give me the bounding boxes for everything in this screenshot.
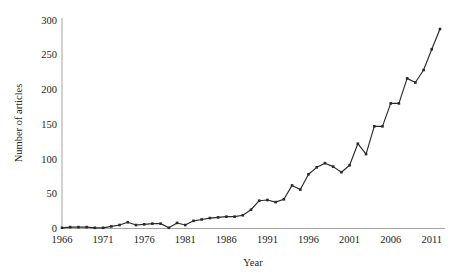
data-point (439, 28, 442, 31)
data-point (135, 224, 138, 227)
chart-figure: 050100150200250300 196619711976198119861… (0, 0, 453, 275)
data-point (143, 223, 146, 226)
data-point (381, 125, 384, 128)
y-tick-label: 150 (41, 119, 57, 130)
data-point (414, 81, 417, 84)
data-point (110, 225, 113, 228)
y-tick-label: 100 (41, 154, 57, 165)
y-tick-label: 300 (41, 15, 57, 26)
data-point (94, 227, 97, 230)
data-point (389, 102, 392, 105)
data-point (233, 215, 236, 218)
line-chart: 050100150200250300 196619711976198119861… (0, 0, 453, 275)
x-tick-label: 1986 (216, 234, 237, 245)
data-point (151, 222, 154, 225)
data-point (126, 221, 129, 224)
data-point (102, 227, 105, 230)
data-point (159, 222, 162, 225)
data-point (315, 166, 318, 169)
x-tick-label: 2001 (339, 234, 360, 245)
data-point (340, 171, 343, 174)
x-tick-label: 2011 (421, 234, 442, 245)
data-point (291, 184, 294, 187)
data-point (77, 226, 80, 229)
data-point (348, 164, 351, 167)
data-point (85, 226, 88, 229)
data-point (307, 173, 310, 176)
data-point (373, 125, 376, 128)
x-tick-label: 1981 (175, 234, 196, 245)
x-tick-label: 1971 (93, 234, 114, 245)
y-axis-title: Number of articles (13, 84, 24, 163)
x-tick-label: 1976 (134, 234, 155, 245)
data-point (250, 208, 253, 211)
data-point (324, 162, 327, 165)
data-point (200, 218, 203, 221)
data-point (176, 222, 179, 225)
data-point (266, 199, 269, 202)
data-point (357, 142, 360, 145)
data-point (258, 199, 261, 202)
x-axis-title: Year (243, 257, 263, 268)
data-point (184, 224, 187, 227)
data-point (168, 227, 171, 230)
data-point (365, 153, 368, 156)
data-point (118, 224, 121, 227)
data-point (61, 227, 64, 230)
data-point (422, 69, 425, 72)
data-point (398, 102, 401, 105)
data-point (430, 48, 433, 51)
data-point (225, 215, 228, 218)
y-tick-label: 50 (47, 188, 58, 199)
data-point (69, 226, 72, 229)
data-point (299, 188, 302, 191)
y-tick-label: 250 (41, 49, 57, 60)
data-point (209, 217, 212, 220)
data-point (274, 201, 277, 204)
data-point (241, 214, 244, 217)
x-tick-label: 1996 (298, 234, 319, 245)
x-tick-label: 2006 (380, 234, 401, 245)
data-point (332, 165, 335, 168)
data-point (217, 216, 220, 219)
y-tick-label: 0 (52, 223, 57, 234)
data-point (406, 77, 409, 80)
data-point (283, 198, 286, 201)
data-point (192, 220, 195, 223)
y-tick-label: 200 (41, 84, 57, 95)
x-tick-label: 1991 (257, 234, 278, 245)
x-tick-label: 1966 (52, 234, 73, 245)
